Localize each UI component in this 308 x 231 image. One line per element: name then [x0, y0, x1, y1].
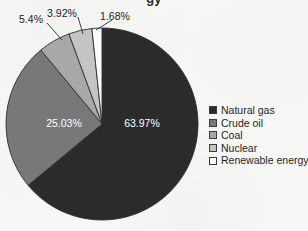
legend-item-label: Coal	[221, 129, 243, 142]
legend-item[interactable]: Renewable energy	[209, 154, 307, 167]
legend-item[interactable]: Crude oil	[209, 117, 307, 130]
pie-slice-group	[6, 28, 198, 220]
legend-item[interactable]: Natural gas	[209, 104, 307, 117]
legend-item-label: Nuclear	[221, 142, 257, 155]
chart-legend: Natural gasCrude oilCoalNuclearRenewable…	[209, 104, 307, 167]
slice-percent-label: 1.68%	[100, 10, 130, 22]
legend-item[interactable]: Coal	[209, 129, 307, 142]
leader-line	[47, 23, 62, 40]
legend-item-label: Crude oil	[221, 117, 263, 130]
legend-item-label: Renewable energy	[221, 154, 308, 167]
slice-percent-label: 25.03%	[46, 117, 82, 129]
chart-page: gy 63.97%25.03%5.4%3.92%1.68% Natural ga…	[0, 0, 308, 231]
slice-percent-label: 3.92%	[47, 7, 77, 19]
legend-swatch-icon	[209, 119, 217, 127]
legend-swatch-icon	[209, 106, 217, 114]
legend-item[interactable]: Nuclear	[209, 142, 307, 155]
legend-item-label: Natural gas	[221, 104, 275, 117]
legend-swatch-icon	[209, 157, 217, 165]
legend-swatch-icon	[209, 131, 217, 139]
slice-percent-label: 5.4%	[19, 13, 43, 25]
legend-swatch-icon	[209, 144, 217, 152]
slice-percent-label: 63.97%	[124, 117, 160, 129]
